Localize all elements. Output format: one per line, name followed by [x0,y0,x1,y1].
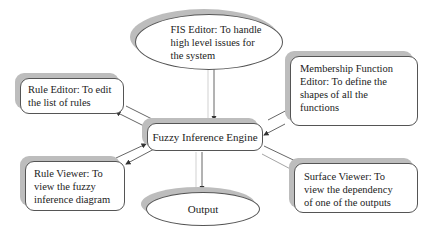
rule-viewer-label: Rule Viewer: To view the fuzzy inference… [34,168,110,205]
fis-editor-label: FIS Editor: To handle high level issues … [171,23,262,62]
surface-viewer-label: Surface Viewer: To view the dependency o… [304,171,393,208]
surface-viewer-node: Surface Viewer: To view the dependency o… [294,163,418,213]
output-label: Output [188,203,219,216]
edge-fis-to-engine [208,66,214,120]
edge-membership-engine [264,108,291,135]
fuzzy-inference-diagram: FIS Editor: To handle high level issues … [0,0,426,237]
rule-editor-node: Rule Editor: To edit the list of rules [20,78,124,114]
membership-editor-node: Membership Function Editor: To define th… [290,56,418,126]
fis-editor-node: FIS Editor: To handle high level issues … [135,14,283,70]
edge-engine-to-output [196,152,202,190]
engine-label: Fuzzy Inference Engine [152,131,257,144]
output-node: Output [146,192,260,226]
rule-viewer-node: Rule Viewer: To view the fuzzy inference… [25,161,125,211]
rule-editor-label: Rule Editor: To edit the list of rules [28,84,111,108]
fuzzy-inference-engine-node: Fuzzy Inference Engine [147,123,263,151]
membership-editor-label: Membership Function Editor: To define th… [300,63,393,113]
